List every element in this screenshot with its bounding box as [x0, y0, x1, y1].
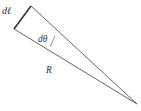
upper-radius-line	[31, 6, 137, 104]
lower-radius-line	[14, 29, 137, 104]
angle-tick	[50, 36, 55, 47]
angle-label: dθ	[38, 34, 48, 44]
arc-length-segment	[14, 6, 31, 29]
arc-length-label: dℓ	[2, 5, 11, 16]
wedge-diagram: dℓ dθ R	[0, 0, 141, 111]
radius-label: R	[45, 65, 52, 75]
